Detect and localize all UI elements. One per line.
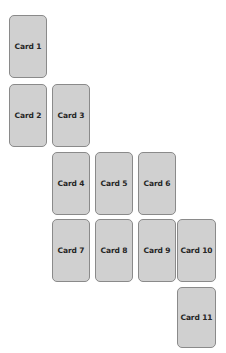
card-label: Card 1 (15, 43, 42, 51)
card-label: Card 9 (144, 247, 171, 255)
card-9[interactable]: Card 9 (138, 219, 176, 282)
card-label: Card 3 (58, 112, 85, 120)
card-1[interactable]: Card 1 (9, 15, 47, 78)
card-label: Card 7 (58, 247, 85, 255)
card-6[interactable]: Card 6 (138, 152, 176, 215)
card-11[interactable]: Card 11 (177, 287, 216, 348)
card-8[interactable]: Card 8 (95, 219, 133, 282)
card-7[interactable]: Card 7 (52, 219, 90, 282)
card-5[interactable]: Card 5 (95, 152, 133, 215)
card-label: Card 2 (15, 112, 42, 120)
card-label: Card 5 (101, 180, 128, 188)
card-10[interactable]: Card 10 (177, 219, 216, 282)
card-board: Card 1Card 2Card 3Card 4Card 5Card 6Card… (0, 0, 226, 353)
card-label: Card 4 (58, 180, 85, 188)
card-4[interactable]: Card 4 (52, 152, 90, 215)
card-label: Card 6 (144, 180, 171, 188)
card-2[interactable]: Card 2 (9, 84, 47, 147)
card-3[interactable]: Card 3 (52, 84, 90, 147)
card-label: Card 10 (181, 247, 213, 255)
card-label: Card 11 (181, 314, 213, 322)
card-label: Card 8 (101, 247, 128, 255)
